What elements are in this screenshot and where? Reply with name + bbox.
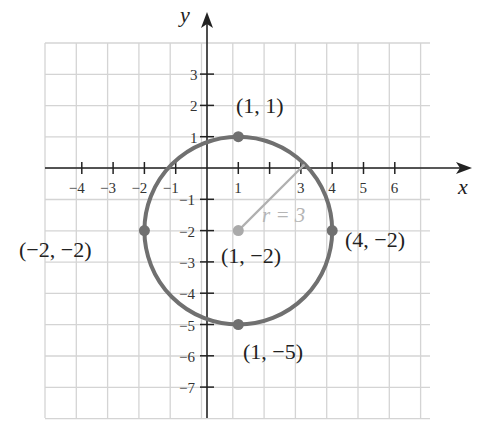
y-tick-label: 3 bbox=[190, 67, 198, 83]
point-center bbox=[233, 225, 244, 236]
y-tick-label: −2 bbox=[179, 224, 195, 240]
point-left bbox=[139, 225, 150, 236]
label-point-right: (4, −2) bbox=[345, 227, 405, 252]
x-tick-label: −1 bbox=[163, 180, 179, 196]
label-point-top: (1, 1) bbox=[236, 93, 284, 118]
x-ticks: −4−3−2−113456 bbox=[69, 162, 399, 196]
point-bottom bbox=[233, 319, 244, 330]
label-point-left: (−2, −2) bbox=[19, 237, 91, 262]
y-axis bbox=[201, 12, 213, 418]
label-point-bottom: (1, −5) bbox=[243, 339, 303, 364]
radius-label: r = 3 bbox=[262, 203, 305, 227]
x-tick-label: −3 bbox=[100, 180, 116, 196]
point-right bbox=[327, 225, 338, 236]
x-tick-label: 1 bbox=[234, 180, 242, 196]
y-tick-label: −7 bbox=[179, 380, 195, 396]
y-axis-label: y bbox=[178, 2, 190, 27]
y-tick-label: 1 bbox=[190, 130, 198, 146]
label-point-center: (1, −2) bbox=[221, 243, 281, 268]
x-axis bbox=[45, 162, 472, 174]
y-tick-label: −5 bbox=[179, 318, 195, 334]
x-tick-label: −4 bbox=[69, 180, 85, 196]
x-tick-label: 3 bbox=[297, 180, 305, 196]
y-tick-label: −6 bbox=[179, 349, 195, 365]
x-tick-label: −2 bbox=[131, 180, 147, 196]
x-axis-label: x bbox=[457, 174, 468, 199]
y-tick-label: −1 bbox=[179, 192, 195, 208]
point-top bbox=[233, 131, 244, 142]
x-tick-label: 6 bbox=[391, 180, 399, 196]
y-ticks: 321−1−2−3−4−5−6−7 bbox=[179, 67, 214, 396]
y-tick-label: −3 bbox=[179, 255, 195, 271]
y-tick-label: −4 bbox=[179, 286, 195, 302]
circle-graph-diagram: −4−3−2−113456 321−1−2−3−4−5−6−7 x y r = … bbox=[0, 0, 487, 438]
x-tick-label: 5 bbox=[360, 180, 368, 196]
x-tick-label: 4 bbox=[328, 180, 336, 196]
y-tick-label: 2 bbox=[190, 98, 198, 114]
